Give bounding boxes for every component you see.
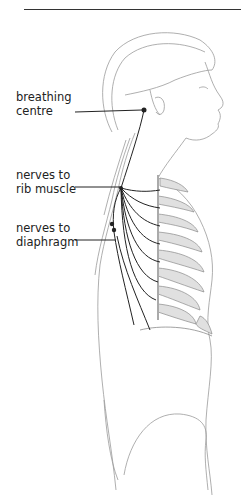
label-line: centre [16,104,71,118]
label-nerves-diaphragm: nerves to diaphragm [16,221,78,249]
label-line: breathing [16,90,71,104]
label-line: diaphragm [16,235,78,249]
label-breathing-centre: breathing centre [16,90,71,118]
label-nerves-rib-muscle: nerves to rib muscle [16,168,76,196]
body-illustration [0,0,241,501]
label-line: nerves to [16,221,78,235]
label-line: nerves to [16,168,76,182]
label-line: rib muscle [16,182,76,196]
